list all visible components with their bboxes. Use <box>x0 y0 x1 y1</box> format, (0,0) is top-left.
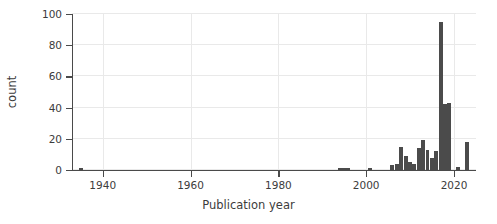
y-tick-label: 80 <box>20 40 62 51</box>
x-tick-mark <box>103 171 104 177</box>
y-tick-label: 60 <box>20 71 62 82</box>
bar <box>426 150 430 170</box>
bar <box>434 151 438 170</box>
x-tick-label: 2020 <box>424 180 484 191</box>
bar <box>443 104 447 170</box>
x-axis-line <box>72 170 476 171</box>
bar <box>417 148 421 170</box>
y-tick-mark <box>66 76 72 77</box>
x-tick-label: 1980 <box>248 180 308 191</box>
y-axis-line <box>72 14 73 171</box>
y-axis-label: count <box>5 76 19 108</box>
y-tick-mark <box>66 14 72 15</box>
y-tick-mark <box>66 139 72 140</box>
y-tick-label: 40 <box>20 103 62 114</box>
histogram-figure: 020406080100 19401960198020002020 Public… <box>0 0 497 224</box>
bar <box>439 22 443 170</box>
bar <box>447 103 451 170</box>
y-tick-mark <box>66 45 72 46</box>
y-tick-label: 20 <box>20 134 62 145</box>
bar <box>421 140 425 170</box>
x-tick-label: 1960 <box>161 180 221 191</box>
x-tick-label: 2000 <box>336 180 396 191</box>
x-axis-label: Publication year <box>0 198 497 212</box>
bar <box>408 162 412 170</box>
plot-area <box>72 14 476 170</box>
y-tick-label: 0 <box>20 165 62 176</box>
x-tick-mark <box>366 171 367 177</box>
bar <box>404 156 408 170</box>
x-tick-mark <box>278 171 279 177</box>
bar <box>399 147 403 170</box>
x-tick-mark <box>454 171 455 177</box>
x-tick-label: 1940 <box>73 180 133 191</box>
x-tick-mark <box>191 171 192 177</box>
bar-series <box>72 14 476 170</box>
y-tick-label: 100 <box>20 9 62 20</box>
bar <box>430 158 434 170</box>
bar <box>465 142 469 170</box>
y-tick-mark <box>66 170 72 171</box>
y-tick-mark <box>66 108 72 109</box>
